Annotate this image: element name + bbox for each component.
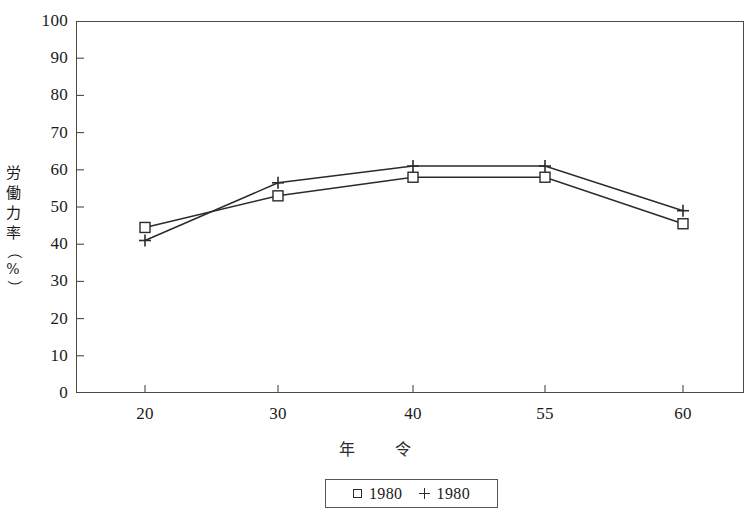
data-point-square-55 xyxy=(540,172,550,182)
legend-label: 1980 xyxy=(369,485,403,503)
square-marker-icon xyxy=(353,489,362,498)
chart-legend: 19801980 xyxy=(325,479,498,508)
legend-label: 1980 xyxy=(437,485,471,503)
data-point-plus-30 xyxy=(272,177,284,189)
data-point-plus-40 xyxy=(407,160,419,172)
legend-entry-0[interactable]: 1980 xyxy=(353,485,403,503)
data-point-square-60 xyxy=(678,219,688,229)
x-axis-ticks xyxy=(145,385,683,393)
data-series-group xyxy=(139,160,689,246)
plus-marker-icon xyxy=(419,488,430,499)
data-point-square-30 xyxy=(273,191,283,201)
chart-canvas xyxy=(0,0,749,515)
data-point-plus-20 xyxy=(139,234,151,246)
data-point-plus-60 xyxy=(677,205,689,217)
data-point-square-20 xyxy=(140,222,150,232)
data-point-plus-55 xyxy=(539,160,551,172)
y-axis-ticks xyxy=(76,58,84,356)
legend-entry-1[interactable]: 1980 xyxy=(419,485,471,503)
data-point-square-40 xyxy=(408,172,418,182)
chart-page: 1009080706050403020100 2030405560 労働力率（%… xyxy=(0,0,749,515)
